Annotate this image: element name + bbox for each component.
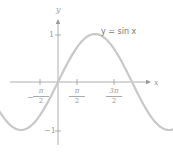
- y-tick-label-neg-1: −1: [44, 127, 56, 135]
- x-tick-label-three-half-pi: 3π 2: [106, 88, 122, 105]
- frac-den: 2: [33, 97, 49, 105]
- axis-ticks: [40, 35, 114, 131]
- frac-num: π: [69, 88, 85, 97]
- x-axis-label: x: [154, 79, 159, 87]
- x-tick-label-half-pi: π 2: [69, 88, 85, 105]
- chart-canvas: [0, 0, 173, 154]
- chart-title: y = sin x: [101, 27, 136, 36]
- x-tick-label-neg-half-pi: π 2: [33, 88, 49, 105]
- frac-num: 3π: [106, 88, 122, 97]
- frac-den: 2: [106, 97, 122, 105]
- y-axis-label: y: [56, 6, 61, 14]
- y-tick-label-1: 1: [49, 31, 54, 39]
- frac-num: π: [33, 88, 49, 97]
- frac-den: 2: [69, 97, 85, 105]
